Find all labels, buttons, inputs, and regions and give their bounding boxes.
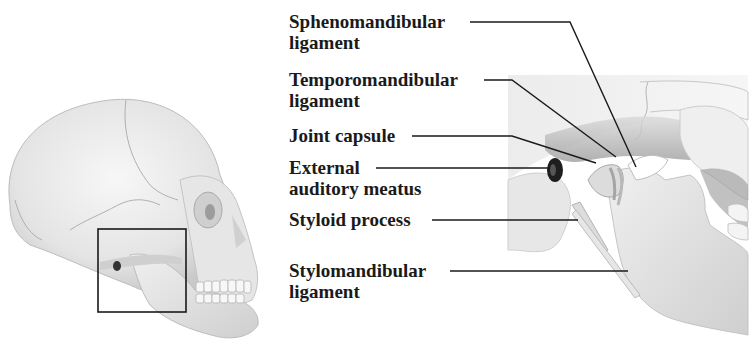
label-line: Stylomandibular	[289, 260, 426, 281]
label-line: Temporomandibular	[289, 69, 458, 90]
label-line: Joint capsule	[289, 125, 395, 146]
label-sphenomandibular-ligament: Sphenomandibular ligament	[289, 11, 445, 53]
label-external-auditory-meatus: External auditory meatus	[289, 157, 421, 199]
label-line: ligament	[289, 90, 458, 111]
label-line: External	[289, 157, 421, 178]
anatomy-figure: Sphenomandibular ligament Temporomandibu…	[0, 0, 754, 361]
label-line: ligament	[289, 32, 445, 53]
label-line: ligament	[289, 281, 426, 302]
label-stylomandibular-ligament: Stylomandibular ligament	[289, 260, 426, 302]
tmj-detail-view	[508, 75, 748, 335]
label-line: Styloid process	[289, 209, 411, 230]
label-temporomandibular-ligament: Temporomandibular ligament	[289, 69, 458, 111]
label-styloid-process: Styloid process	[289, 209, 411, 230]
label-line: auditory meatus	[289, 178, 421, 199]
skull-overview	[9, 99, 258, 338]
label-joint-capsule: Joint capsule	[289, 125, 395, 146]
label-line: Sphenomandibular	[289, 11, 445, 32]
